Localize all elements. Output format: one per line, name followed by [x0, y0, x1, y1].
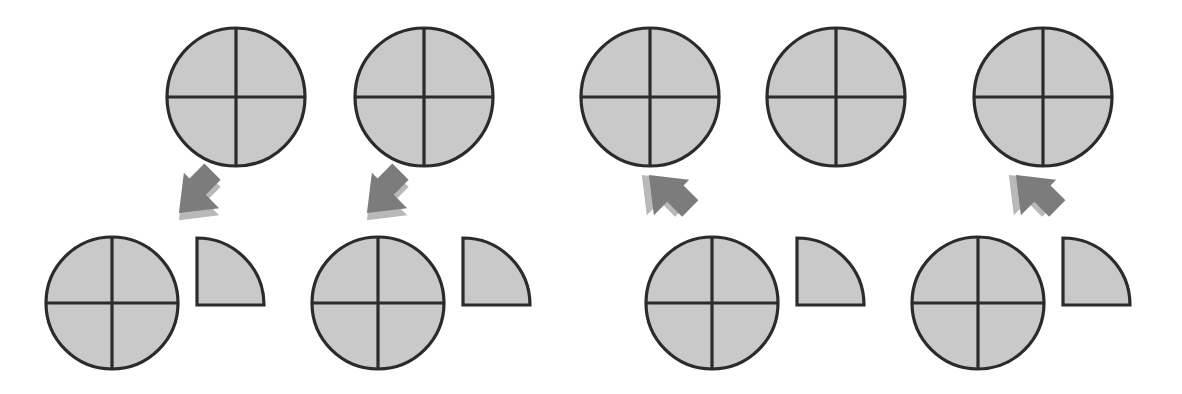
quarter-wedge-4 — [1063, 238, 1130, 305]
arrow-row — [158, 154, 1071, 238]
partitioned-group-1 — [46, 237, 178, 369]
partition-group-2 — [312, 237, 530, 369]
whole-group-2 — [355, 28, 493, 166]
whole-group-5 — [974, 28, 1112, 166]
transition-arrow-2-down-left — [346, 158, 426, 238]
arrow-body — [161, 158, 234, 231]
partition-group-3 — [646, 237, 864, 369]
partition-group-4 — [912, 237, 1130, 369]
partitioned-group-2 — [312, 237, 444, 369]
quarter-wedge-2 — [463, 238, 530, 305]
partitioned-group-3 — [646, 237, 778, 369]
transition-arrow-1-down-left — [158, 158, 238, 238]
partitioned-group-4 — [912, 237, 1044, 369]
arrow-body — [631, 157, 704, 230]
quarter-wedge-1 — [197, 238, 264, 305]
arrow-body — [998, 157, 1071, 230]
partition-group-1 — [46, 237, 264, 369]
arrow-body — [349, 158, 422, 231]
whole-group-4 — [767, 28, 905, 166]
whole-group-3 — [581, 28, 719, 166]
top-row-whole-circles — [167, 28, 1112, 166]
whole-group-1 — [167, 28, 305, 166]
diagram-canvas — [0, 0, 1182, 394]
quarter-wedge-3 — [797, 238, 864, 305]
fraction-diagram-scene — [0, 0, 1182, 394]
bottom-row-partitioned — [46, 237, 1130, 369]
